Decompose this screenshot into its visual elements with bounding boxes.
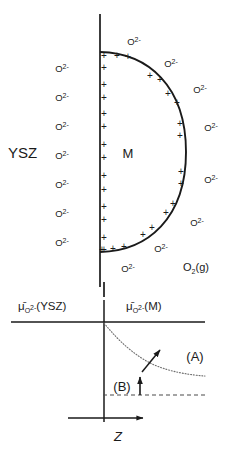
svg-text:+: + <box>101 79 107 90</box>
curve-a-label: (A) <box>186 349 203 364</box>
svg-text:+: + <box>101 108 107 119</box>
svg-text:+: + <box>101 121 107 132</box>
bottom-plot-group: μ̄O2-(YSZ) μ̄O2-(M) (A) (B) Z <box>11 282 205 444</box>
oxide-ion-label: O2- <box>55 92 69 103</box>
svg-text:+: + <box>101 184 107 195</box>
svg-text:+: + <box>163 207 169 218</box>
svg-text:+: + <box>101 50 107 61</box>
oxide-ion-label: O2- <box>55 150 69 161</box>
svg-text:+: + <box>101 139 107 150</box>
svg-text:+: + <box>177 118 183 129</box>
svg-text:+: + <box>101 62 107 73</box>
svg-text:+: + <box>149 222 155 233</box>
svg-text:+: + <box>174 97 180 108</box>
svg-text:+: + <box>178 178 184 189</box>
oxide-ions-ysz: O2- O2- O2- O2- O2- O2- O2- <box>55 63 69 248</box>
mu-label-metal: μ̄O2-(M) <box>126 300 162 314</box>
svg-text:+: + <box>125 51 131 62</box>
oxide-ion-label: O2- <box>55 121 69 132</box>
svg-text:+: + <box>147 70 153 81</box>
oxide-ion-label: O2- <box>121 263 135 274</box>
svg-text:+: + <box>165 88 171 99</box>
svg-text:+: + <box>178 166 184 177</box>
svg-text:+: + <box>121 241 127 252</box>
gas-phase-label-o2: O2(g) <box>183 261 209 275</box>
oxide-ion-label: O2- <box>55 179 69 190</box>
svg-text:+: + <box>170 198 176 209</box>
space-charge-plus-boundary: + + + + + + + + + + + + + + + + + <box>99 50 184 255</box>
oxide-ion-label: O2- <box>193 84 207 95</box>
phase-label-ysz: YSZ <box>8 144 37 161</box>
space-charge-plus-interface: + + + + + + + + + + + + + + <box>101 50 107 255</box>
svg-text:+: + <box>99 244 105 255</box>
curve-b-label: (B) <box>113 379 130 394</box>
svg-text:+: + <box>114 50 120 61</box>
oxide-ion-label: O2- <box>55 63 69 74</box>
svg-text:+: + <box>157 74 163 85</box>
diagram-canvas: + + + + + + + + + + + + + + + + + + <box>0 0 239 458</box>
oxide-ion-label: O2- <box>204 122 218 133</box>
oxide-ion-label: O2- <box>55 208 69 219</box>
x-axis-label-z: Z <box>113 429 123 444</box>
svg-text:+: + <box>101 201 107 212</box>
oxide-ions-outer: O2- O2- O2- O2- O2- O2- O2- O2- <box>121 36 218 274</box>
mu-label-ysz: μ̄O2-(YSZ) <box>18 300 67 314</box>
svg-text:+: + <box>101 214 107 225</box>
oxide-ion-label: O2- <box>164 58 178 69</box>
oxide-ion-label: O2- <box>154 243 168 254</box>
oxide-ion-label: O2- <box>127 36 141 47</box>
curve-a-pointer-arrow <box>142 350 160 372</box>
svg-text:+: + <box>101 232 107 243</box>
oxide-ion-label: O2- <box>190 217 204 228</box>
svg-text:+: + <box>110 243 116 254</box>
svg-text:+: + <box>177 130 183 141</box>
svg-text:+: + <box>101 170 107 181</box>
oxide-ion-label: O2- <box>204 174 218 185</box>
metal-particle-outline <box>100 52 186 252</box>
svg-text:+: + <box>101 152 107 163</box>
oxide-ion-label: O2- <box>55 237 69 248</box>
figure-root: + + + + + + + + + + + + + + + + + + <box>0 0 239 458</box>
svg-text:+: + <box>101 92 107 103</box>
svg-text:+: + <box>140 229 146 240</box>
top-diagram-group: + + + + + + + + + + + + + + + + + + <box>8 14 218 287</box>
particle-label-m: M <box>123 146 134 161</box>
